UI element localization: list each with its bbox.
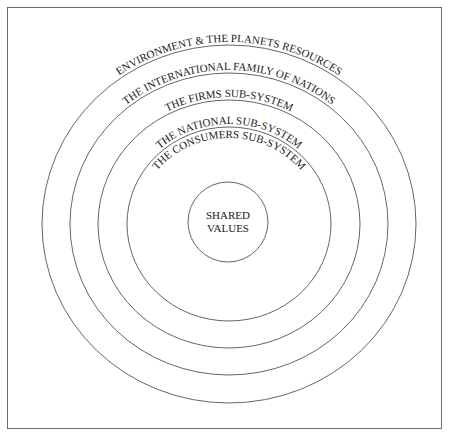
center-label-line1: SHARED xyxy=(206,209,250,221)
concentric-diagram: ENVIRONMENT & THE PLANETS RESOURCES THE … xyxy=(0,0,450,438)
center-label-line2: VALUES xyxy=(207,222,249,234)
